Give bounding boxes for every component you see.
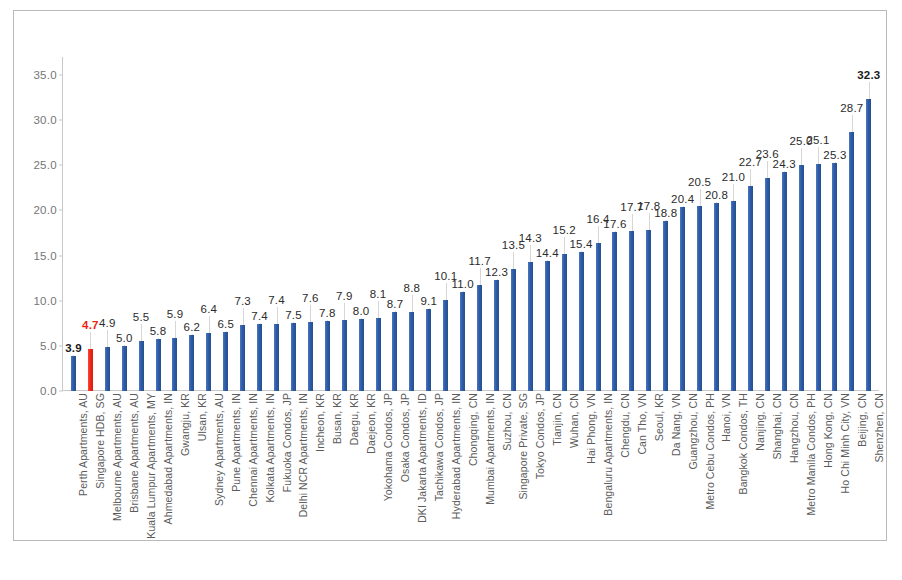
bar[interactable] (680, 207, 685, 391)
bar-slot[interactable]: 7.5 (285, 57, 302, 391)
bar-slot[interactable]: 32.3 (860, 57, 877, 391)
bar-slot[interactable]: 20.5 (691, 57, 708, 391)
bar[interactable] (376, 318, 381, 391)
bar[interactable] (748, 186, 753, 391)
bar[interactable] (460, 292, 465, 391)
x-axis-label-slot: Metro Cebu Condos, PH (691, 393, 708, 543)
bar-slot[interactable]: 6.5 (217, 57, 234, 391)
bar-slot[interactable]: 11.7 (471, 57, 488, 391)
label-leader-line (412, 295, 413, 312)
bar[interactable] (139, 341, 144, 391)
bar[interactable] (172, 338, 177, 391)
bar[interactable] (697, 206, 702, 391)
bar-slot[interactable]: 13.5 (505, 57, 522, 391)
bar[interactable] (816, 164, 821, 391)
label-leader-line (632, 214, 633, 231)
bar[interactable] (511, 269, 516, 391)
bar-slot[interactable]: 8.8 (403, 57, 420, 391)
bar[interactable] (325, 321, 330, 391)
bar[interactable] (122, 346, 127, 391)
bar[interactable] (562, 254, 567, 391)
bar[interactable] (646, 230, 651, 391)
bar[interactable] (291, 323, 296, 391)
bar[interactable] (308, 322, 313, 391)
bar-slot[interactable]: 21.0 (725, 57, 742, 391)
bar-slot[interactable]: 4.7 (82, 57, 99, 391)
bar[interactable] (765, 178, 770, 391)
bar[interactable] (579, 252, 584, 391)
bar[interactable] (866, 99, 871, 391)
bar-value-label: 32.3 (857, 69, 880, 81)
bar[interactable] (477, 285, 482, 391)
bar[interactable] (612, 232, 617, 391)
bar[interactable] (71, 356, 76, 391)
x-axis-label-slot: Bangkok Condos, TH (725, 393, 742, 543)
bar[interactable] (189, 335, 194, 391)
bar[interactable] (663, 221, 668, 391)
bar-slot[interactable]: 7.6 (302, 57, 319, 391)
bar-slot[interactable]: 7.9 (336, 57, 353, 391)
bar[interactable] (528, 262, 533, 391)
bar[interactable] (257, 324, 262, 391)
bar[interactable] (849, 132, 854, 391)
bar[interactable] (223, 332, 228, 391)
bar[interactable] (426, 309, 431, 391)
bar[interactable] (392, 312, 397, 391)
bar-slot[interactable]: 6.4 (200, 57, 217, 391)
bar-slot[interactable]: 4.9 (99, 57, 116, 391)
bar-slot[interactable]: 15.2 (556, 57, 573, 391)
bar[interactable] (156, 339, 161, 391)
bar-slot[interactable]: 7.8 (319, 57, 336, 391)
bar[interactable] (596, 243, 601, 391)
bar[interactable] (359, 319, 364, 391)
bar-slot[interactable]: 3.9 (65, 57, 82, 391)
bar[interactable] (832, 163, 837, 391)
bar-slot[interactable]: 7.4 (268, 57, 285, 391)
bar-slot[interactable]: 12.3 (488, 57, 505, 391)
bar[interactable] (629, 231, 634, 391)
bar-slot[interactable]: 18.8 (657, 57, 674, 391)
x-axis-label-slot: Wuhan, CN (556, 393, 573, 543)
bar-slot[interactable]: 5.5 (133, 57, 150, 391)
bar[interactable] (274, 324, 279, 391)
bar-slot[interactable]: 5.0 (116, 57, 133, 391)
bar-slot[interactable]: 28.7 (843, 57, 860, 391)
bar[interactable] (342, 320, 347, 391)
bar-slot[interactable]: 25.0 (793, 57, 810, 391)
bar-slot[interactable]: 17.8 (640, 57, 657, 391)
bar[interactable] (731, 201, 736, 391)
bar-slot[interactable]: 17.6 (607, 57, 624, 391)
bar-slot[interactable]: 25.1 (810, 57, 827, 391)
bar[interactable] (782, 172, 787, 391)
bar-slot[interactable]: 17.7 (623, 57, 640, 391)
bar-slot[interactable]: 5.9 (167, 57, 184, 391)
bar-slot[interactable]: 10.1 (437, 57, 454, 391)
bar[interactable] (88, 349, 93, 391)
bar-slot[interactable]: 6.2 (183, 57, 200, 391)
bar-slot[interactable]: 23.6 (759, 57, 776, 391)
bar[interactable] (545, 261, 550, 391)
bar[interactable] (494, 280, 499, 391)
bar-slot[interactable]: 8.1 (370, 57, 387, 391)
bar[interactable] (206, 333, 211, 391)
label-leader-line (564, 237, 565, 254)
bar[interactable] (443, 300, 448, 391)
bar-slot[interactable]: 5.8 (150, 57, 167, 391)
bar[interactable] (409, 312, 414, 391)
bar[interactable] (240, 325, 245, 391)
bar-slot[interactable]: 14.3 (522, 57, 539, 391)
bar[interactable] (799, 165, 804, 391)
bar-slot[interactable]: 24.3 (776, 57, 793, 391)
bar-slot[interactable]: 20.4 (674, 57, 691, 391)
bar-slot[interactable]: 9.1 (420, 57, 437, 391)
bar-slot[interactable]: 7.3 (234, 57, 251, 391)
bar[interactable] (714, 203, 719, 391)
bar-slot[interactable]: 8.7 (387, 57, 404, 391)
bar-slot[interactable]: 11.0 (454, 57, 471, 391)
bar-slot[interactable]: 8.0 (353, 57, 370, 391)
bar-slot[interactable]: 7.4 (251, 57, 268, 391)
bar-slot[interactable]: 20.8 (708, 57, 725, 391)
label-leader-line (683, 206, 684, 207)
bar[interactable] (105, 347, 110, 391)
bar-slot[interactable]: 22.7 (742, 57, 759, 391)
